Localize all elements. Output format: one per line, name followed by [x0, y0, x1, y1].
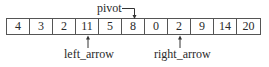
array-cell-3: 11: [76, 19, 99, 34]
array-cell-5: 8: [122, 19, 145, 34]
array-cell-2: 2: [53, 19, 76, 34]
array-cell-4: 5: [99, 19, 122, 34]
right-arrow-label: right_arrow: [154, 48, 211, 61]
array-row: 4 3 2 11 5 8 0 2 9 14 20: [6, 18, 261, 35]
array-cell-7: 2: [168, 19, 191, 34]
array-cell-6: 0: [145, 19, 168, 34]
pivot-label: pivot: [97, 2, 122, 15]
array-cell-8: 9: [191, 19, 214, 34]
array-cell-9: 14: [214, 19, 237, 34]
left-arrow-label: left_arrow: [64, 48, 114, 61]
array-cell-1: 3: [30, 19, 53, 34]
array-cell-10: 20: [237, 19, 260, 34]
pivot-arrow-icon: [122, 6, 138, 20]
array-cell-0: 4: [7, 19, 30, 34]
